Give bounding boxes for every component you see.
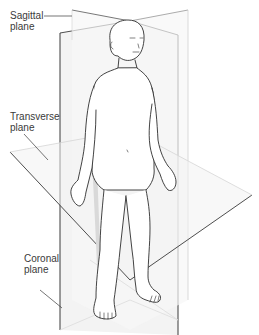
sagittal-label-line1: Sagittal [10, 10, 43, 21]
coronal-label-line2: plane [24, 264, 59, 275]
anatomical-planes-diagram: Sagittal plane Transverse plane Coronal … [0, 0, 259, 335]
coronal-label-line1: Coronal [24, 253, 59, 264]
sagittal-label-line2: plane [10, 21, 43, 32]
torso [92, 68, 154, 190]
coronal-plane-label: Coronal plane [24, 253, 59, 275]
transverse-plane-label: Transverse plane [10, 111, 60, 133]
transverse-label-line2: plane [10, 122, 60, 133]
transverse-label-line1: Transverse [10, 111, 60, 122]
sagittal-plane-label: Sagittal plane [10, 10, 43, 32]
head [110, 20, 144, 60]
diagram-svg [0, 0, 259, 335]
coronal-leader [40, 290, 62, 308]
